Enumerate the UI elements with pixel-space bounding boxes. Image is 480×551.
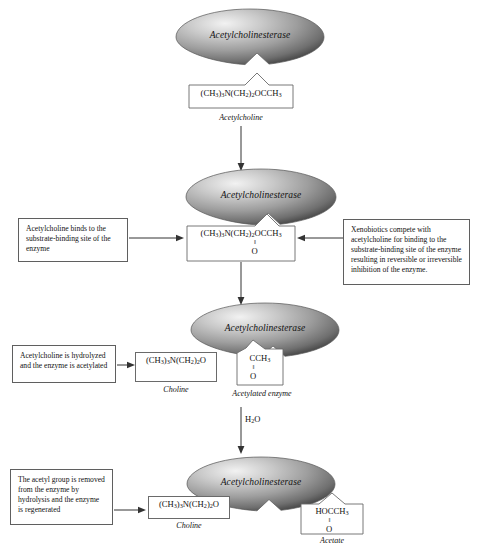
choline-caption-stage3: Choline [135, 385, 217, 394]
arrow-stage1-to-stage2 [235, 126, 247, 172]
formula-main: HOCCH3 [300, 507, 364, 517]
acetate-box-stage4: HOCCH3 ‖ O [300, 492, 364, 535]
acetylcholine-caption-stage1: Acetylcholine [188, 113, 294, 122]
bound-substrate-formula: (CH3)3N(CH2)2OCCH3 ‖ O [186, 229, 296, 257]
formula-text: (CH3)3N(CH2)2OCCH3 [201, 88, 282, 98]
arrow-right-note-to-substrate [297, 233, 343, 243]
arrow-stage2-to-stage3 [235, 262, 247, 306]
acetylcholine-box-stage1: (CH3)3N(CH2)2OCCH3 [188, 72, 294, 109]
arrow-left-note-to-choline-stage4 [114, 505, 146, 515]
oxygen-symbol: O [300, 525, 358, 535]
note-binding-left: Acetylcholine binds to the substrate-bin… [18, 218, 128, 262]
note-hydrolysis-left: Acetylcholine is hydrolyzed and the enzy… [12, 345, 116, 383]
enzyme-ellipse-stage1: Acetylcholinesterase [175, 8, 325, 66]
water-label: H2O [245, 414, 260, 424]
acetylated-enzyme-caption: Acetylated enzyme [222, 389, 302, 398]
acetate-formula: HOCCH3 ‖ O [300, 507, 364, 535]
acetyl-formula: CCH3 ‖ O [236, 354, 284, 382]
acetyl-box-stage3: CCH3 ‖ O [236, 339, 284, 386]
oxygen-symbol: O [213, 247, 296, 257]
choline-caption-stage4: Choline [148, 521, 230, 530]
oxygen-symbol: O [236, 372, 270, 382]
choline-box-stage4: (CH3)3N(CH2)2O [148, 496, 230, 519]
choline-box-stage3: (CH3)3N(CH2)2O [135, 352, 217, 382]
arrow-left-note-to-substrate [129, 233, 185, 243]
formula-main: CCH3 [236, 354, 284, 364]
choline-formula: (CH3)3N(CH2)2O [146, 355, 206, 365]
choline-formula: (CH3)3N(CH2)2O [159, 499, 219, 509]
bound-substrate-box-stage2: (CH3)3N(CH2)2OCCH3 ‖ O [186, 212, 296, 262]
formula-main: (CH3)3N(CH2)2OCCH3 [186, 229, 296, 239]
arrow-left-note-to-choline-stage3 [117, 360, 135, 370]
acetylcholine-formula: (CH3)3N(CH2)2OCCH3 [188, 89, 294, 99]
acetate-caption: Acetate [300, 536, 364, 545]
note-xenobiotics-right: Xenobiotics compete with acetylcholine f… [343, 219, 470, 285]
diagram-canvas: Acetylcholinesterase (CH3)3N(CH2)2OCCH3 … [0, 0, 480, 551]
note-regeneration-left: The acetyl group is removed from the enz… [10, 469, 113, 525]
